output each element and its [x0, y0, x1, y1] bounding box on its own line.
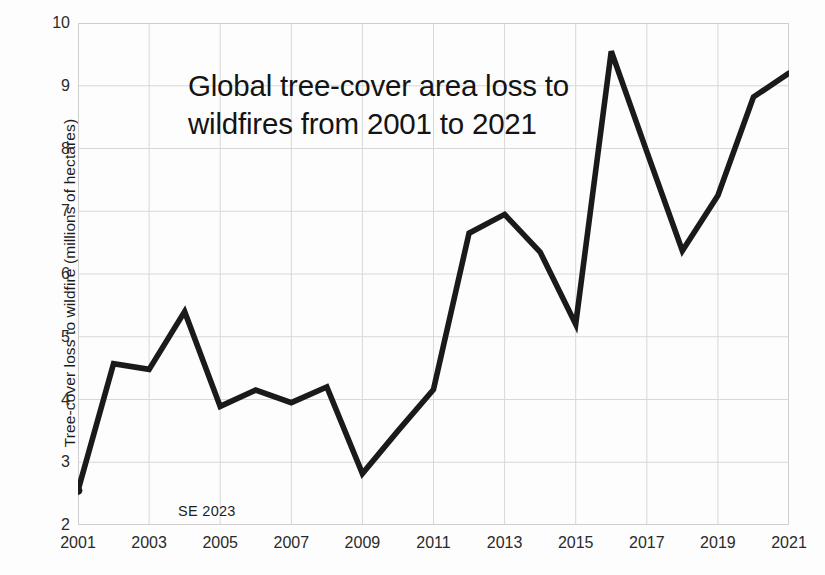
x-tick-label: 2019: [678, 534, 758, 552]
y-tick-label: 2: [30, 516, 70, 534]
x-tick-label: 2005: [180, 534, 260, 552]
y-tick-label: 6: [30, 265, 70, 283]
y-tick-label: 4: [30, 391, 70, 409]
x-tick-label: 2007: [251, 534, 331, 552]
x-axis-tick-labels: 2001200320052007200920112013201520172019…: [78, 534, 789, 560]
x-tick-label: 2021: [749, 534, 825, 552]
x-tick-label: 2017: [607, 534, 687, 552]
x-tick-label: 2011: [394, 534, 474, 552]
y-axis-tick-labels: 2345678910: [26, 23, 70, 525]
y-tick-label: 10: [30, 14, 70, 32]
source-annotation: SE 2023: [178, 503, 236, 519]
chart-title: Global tree-cover area loss to wildfires…: [188, 67, 708, 143]
x-tick-label: 2001: [38, 534, 118, 552]
x-tick-label: 2013: [465, 534, 545, 552]
y-tick-label: 7: [30, 202, 70, 220]
x-tick-label: 2003: [109, 534, 189, 552]
plot-area: Global tree-cover area loss to wildfires…: [78, 23, 789, 525]
y-tick-label: 8: [30, 140, 70, 158]
chart-title-line-1: Global tree-cover area loss to: [188, 67, 708, 105]
x-tick-label: 2015: [536, 534, 616, 552]
y-tick-label: 5: [30, 328, 70, 346]
x-tick-label: 2009: [322, 534, 402, 552]
y-tick-label: 3: [30, 453, 70, 471]
y-tick-label: 9: [30, 77, 70, 95]
chart-figure: Tree-cover loss to wildfire (millions of…: [0, 0, 825, 575]
chart-title-line-2: wildfires from 2001 to 2021: [188, 105, 708, 143]
